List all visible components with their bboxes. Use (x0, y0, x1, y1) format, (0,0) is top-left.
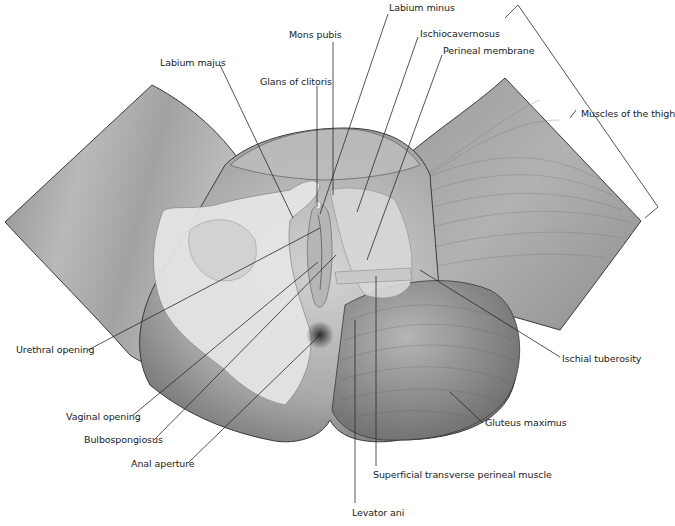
label-bulbospongiosus: Bulbospongiosus (84, 434, 163, 445)
label-vaginal-opening: Vaginal opening (66, 411, 141, 422)
label-mons-pubis: Mons pubis (289, 29, 342, 40)
label-urethral-opening: Urethral opening (16, 344, 94, 355)
label-ischiocavernosus: Ischiocavernosus (420, 28, 500, 39)
label-labium-majus: Labium majus (160, 57, 226, 68)
label-levator-ani: Levator ani (352, 507, 404, 518)
label-gluteus-maximus: Gluteus maximus (485, 417, 567, 428)
label-anal-aperture: Anal aperture (131, 458, 195, 469)
label-ischial-tuberosity: Ischial tuberosity (562, 353, 641, 364)
label-labium-minus: Labium minus (389, 2, 455, 13)
label-muscles-of-the-thigh: Muscles of the thigh (581, 108, 675, 119)
glans-shape (315, 201, 321, 209)
label-perineal-membrane: Perineal membrane (443, 45, 534, 56)
label-superficial-transverse-perineal-muscle: Superficial transverse perineal muscle (373, 469, 552, 480)
label-glans-of-clitoris: Glans of clitoris (260, 76, 332, 87)
